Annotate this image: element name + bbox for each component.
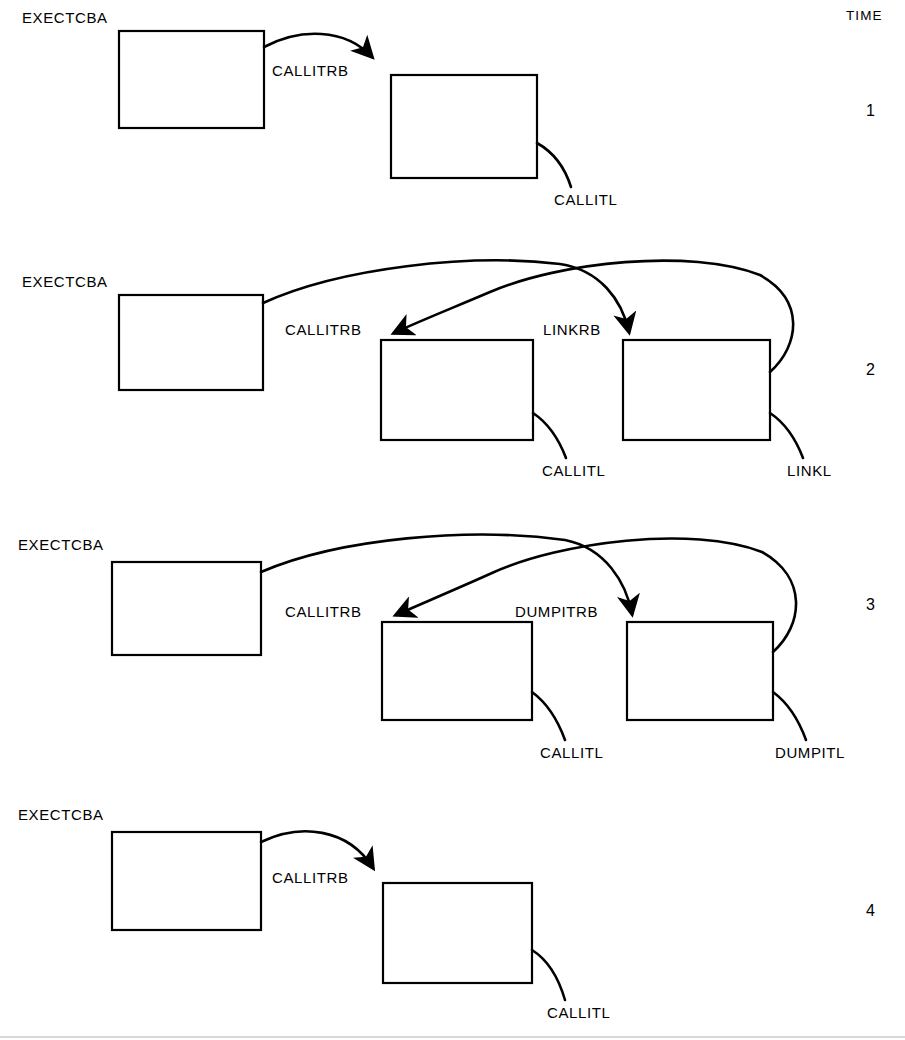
time-number-3: 3 bbox=[866, 597, 875, 613]
tail-dumpitl-r3 bbox=[773, 692, 806, 740]
label-callitl-row2: CALLITL bbox=[542, 463, 605, 478]
label-dumpitl-row3: DUMPITL bbox=[775, 745, 845, 760]
label-callitl-row3: CALLITL bbox=[540, 745, 603, 760]
box-dumpit-request-r3 bbox=[627, 622, 773, 720]
row-2-boxes bbox=[119, 295, 770, 440]
label-callitl-row1: CALLITL bbox=[554, 192, 617, 207]
row-4-boxes bbox=[112, 832, 532, 983]
time-number-2: 2 bbox=[866, 362, 875, 378]
label-linkrb-row2: LINKRB bbox=[543, 322, 601, 337]
box-exec-tcb-r2 bbox=[119, 295, 263, 390]
label-exectcba-row4: EXECTCBA bbox=[18, 807, 104, 822]
label-callitrb-row3: CALLITRB bbox=[285, 604, 362, 619]
time-number-4: 4 bbox=[866, 903, 875, 919]
label-callitl-row4: CALLITL bbox=[547, 1005, 610, 1020]
label-callitrb-row1: CALLITRB bbox=[272, 63, 349, 78]
box-call-request-r2 bbox=[381, 340, 533, 440]
page-bottom-edge bbox=[0, 1036, 905, 1038]
label-exectcba-row2: EXECTCBA bbox=[22, 274, 108, 289]
box-link-request-r2 bbox=[623, 340, 770, 440]
arc-callitrb-r1 bbox=[264, 34, 372, 57]
arc-callitrb-r4 bbox=[261, 831, 373, 868]
time-number-1: 1 bbox=[866, 103, 875, 119]
diagram-canvas: TIME EXECTCBA CALLITRB CALLITL 1 EXECTCB… bbox=[0, 0, 905, 1040]
box-exec-tcb-r3 bbox=[112, 562, 261, 655]
time-column-header: TIME bbox=[846, 9, 883, 23]
label-callitrb-row2: CALLITRB bbox=[285, 322, 362, 337]
label-exectcba-row3: EXECTCBA bbox=[18, 537, 104, 552]
label-callitrb-row4: CALLITRB bbox=[272, 870, 349, 885]
box-call-request-r3 bbox=[382, 622, 532, 720]
box-request-block-r1 bbox=[391, 75, 537, 178]
box-exec-tcb-r4 bbox=[112, 832, 261, 930]
row-3-boxes bbox=[112, 562, 773, 720]
label-exectcba-row1: EXECTCBA bbox=[22, 10, 108, 25]
box-call-request-r4 bbox=[383, 883, 532, 983]
tail-callitl-r4 bbox=[532, 950, 565, 1000]
tail-callitl-r1 bbox=[537, 143, 571, 187]
box-exec-tcb-r1 bbox=[119, 31, 264, 128]
diagram-vector-layer bbox=[0, 0, 905, 1040]
label-linkl-row2: LINKL bbox=[787, 463, 832, 478]
row-1-boxes bbox=[119, 31, 537, 178]
tail-callitl-r3 bbox=[532, 692, 565, 740]
tail-linkl-r2 bbox=[770, 413, 803, 458]
label-dumpitrb-row3: DUMPITRB bbox=[515, 604, 598, 619]
tail-callitl-r2 bbox=[533, 413, 566, 458]
